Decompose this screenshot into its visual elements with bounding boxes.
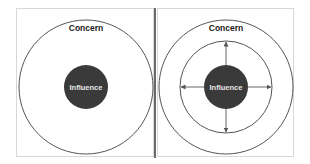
left-influence-label: Influence bbox=[70, 83, 103, 92]
left-panel: Concern Influence bbox=[17, 9, 154, 157]
right-concern-label: Concern bbox=[209, 23, 243, 33]
right-influence-label: Influence bbox=[210, 83, 243, 92]
concern-influence-diagram: Concern Influence Concern Influence bbox=[0, 0, 310, 164]
left-concern-label: Concern bbox=[69, 23, 103, 33]
right-panel: Concern Influence bbox=[158, 9, 294, 157]
